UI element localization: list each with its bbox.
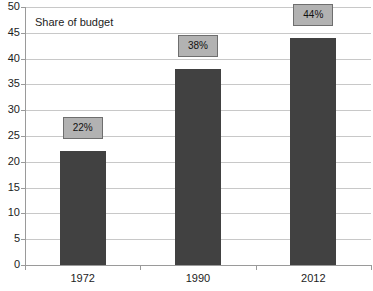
y-axis-tick-label: 35 (0, 78, 20, 89)
y-axis-tick-label: 45 (0, 27, 20, 38)
x-axis-tick-mark (25, 265, 26, 270)
series-caption: Share of budget (35, 16, 113, 28)
y-axis-tick-label: 15 (0, 182, 20, 193)
y-axis-tick-label: 40 (0, 53, 20, 64)
x-axis-line (25, 265, 371, 266)
x-axis-tick-mark (256, 265, 257, 270)
bar-data-label: 22% (63, 117, 103, 139)
bar-data-label: 44% (293, 4, 333, 26)
y-axis-tick-label: 0 (0, 259, 20, 270)
y-axis-line (25, 7, 26, 266)
y-axis-tick-label: 25 (0, 130, 20, 141)
y-axis-tick-label: 30 (0, 104, 20, 115)
bar (175, 69, 221, 265)
y-axis-tick-label: 20 (0, 156, 20, 167)
y-axis-tick-label: 5 (0, 233, 20, 244)
bar (290, 38, 336, 265)
x-axis-tick-label: 2012 (256, 272, 371, 285)
gridline (25, 33, 371, 34)
x-axis-tick-label: 1990 (140, 272, 255, 285)
bar (60, 151, 106, 265)
x-axis-tick-mark (140, 265, 141, 270)
bar-chart: 05101520253035404550 197219902012 22%38%… (0, 0, 373, 291)
x-axis-tick-label: 1972 (25, 272, 140, 285)
y-axis-tick-label: 10 (0, 207, 20, 218)
y-axis-tick-label: 50 (0, 1, 20, 12)
x-axis-tick-mark (371, 265, 372, 270)
y-axis-labels: 05101520253035404550 (0, 0, 20, 291)
bar-data-label: 38% (178, 35, 218, 57)
